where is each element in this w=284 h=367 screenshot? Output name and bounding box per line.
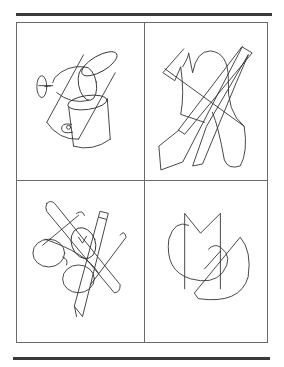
figure-grid	[16, 22, 268, 343]
overlapping-glass-cup-tube-drawing-icon	[17, 23, 144, 180]
overlapping-glasses-pencil-watch-drawing-icon	[17, 181, 144, 343]
overlapping-glove-tie-feather-drawing-icon	[145, 23, 268, 180]
panel-bottom-left	[17, 181, 144, 343]
panel-top-right	[145, 23, 268, 180]
panel-top-left	[17, 23, 144, 180]
panel-bottom-right	[145, 181, 268, 343]
bottom-rule	[13, 357, 270, 360]
overlapping-letters-drawing-icon	[145, 181, 268, 343]
top-rule	[16, 13, 272, 16]
